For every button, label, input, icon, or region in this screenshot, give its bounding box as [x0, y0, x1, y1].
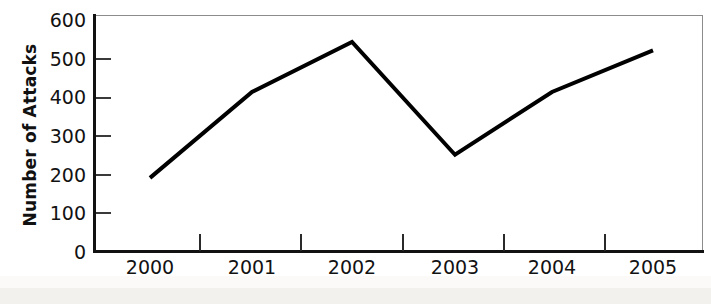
y-tick-mark-300 [96, 135, 111, 137]
y-axis-spine [93, 14, 96, 253]
y-tick-label-500: 500 [28, 50, 86, 69]
x-tick-mark-1 [199, 234, 201, 251]
y-tick-label-600: 600 [28, 11, 86, 30]
y-tick-mark-200 [96, 174, 111, 176]
plot-area-frame [93, 15, 703, 251]
y-tick-label-300: 300 [28, 127, 86, 146]
y-tick-mark-500 [96, 58, 111, 60]
y-tick-label-100: 100 [28, 204, 86, 223]
x-tick-mark-5 [604, 234, 606, 251]
y-tick-mark-100 [96, 212, 111, 214]
x-tick-mark-4 [503, 234, 505, 251]
y-tick-mark-400 [96, 97, 111, 99]
y-tick-label-0: 0 [28, 243, 86, 262]
x-tick-label-2000: 2000 [105, 258, 195, 277]
x-tick-label-2003: 2003 [410, 258, 500, 277]
x-tick-mark-3 [402, 234, 404, 251]
x-tick-label-2002: 2002 [307, 258, 397, 277]
y-axis-tick-label-group: 600 500 400 300 200 100 0 [24, 0, 86, 304]
x-tick-label-2005: 2005 [608, 258, 698, 277]
page-background-tint [0, 288, 711, 304]
x-tick-label-2001: 2001 [207, 258, 297, 277]
x-axis-spine [93, 250, 704, 253]
y-tick-label-200: 200 [28, 166, 86, 185]
x-tick-label-2004: 2004 [507, 258, 597, 277]
x-tick-mark-2 [300, 234, 302, 251]
chart-figure: Number of Attacks 600 500 400 300 200 10… [0, 0, 711, 304]
y-tick-label-400: 400 [28, 88, 86, 107]
